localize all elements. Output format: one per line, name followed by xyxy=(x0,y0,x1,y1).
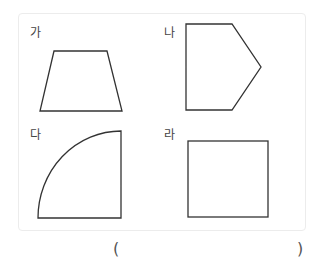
answer-close-paren: ) xyxy=(297,239,303,258)
answer-field[interactable] xyxy=(125,239,295,259)
trapezoid-shape xyxy=(40,51,122,111)
shapes-canvas xyxy=(0,0,321,273)
pentagon-shape xyxy=(186,24,261,110)
quarter-circle-shape xyxy=(38,131,121,218)
answer-open-paren: ( xyxy=(113,239,119,258)
square-shape xyxy=(188,141,268,217)
